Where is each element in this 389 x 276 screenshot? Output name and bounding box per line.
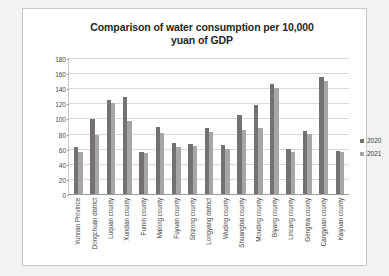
x-axis-tick-label: Biyang county (271, 198, 278, 237)
y-axis-tick-label: 20 (59, 176, 66, 183)
bar-2021[interactable] (144, 153, 148, 194)
chart-legend: 2020 2021 (360, 137, 381, 163)
bar-group (266, 58, 282, 194)
x-axis-label-cell: Lincang county (282, 197, 298, 271)
bar-group (332, 58, 348, 194)
bar-2021[interactable] (95, 135, 99, 194)
bar-group (250, 58, 266, 194)
bar-2021[interactable] (127, 121, 131, 194)
x-axis-label-cell: Cangyuan county (315, 197, 331, 271)
bar-group (201, 58, 217, 194)
legend-item-2021[interactable]: 2021 (360, 150, 381, 157)
chart-title: Comparison of water consumption per 10,0… (57, 21, 347, 47)
x-axis-labels: Yunnan ProvinceDongchuan districtLuquan … (68, 197, 349, 271)
x-axis-label-cell: Yunnan Province (69, 197, 85, 271)
bar-2021[interactable] (193, 146, 197, 194)
x-axis-label-cell: Biyang county (266, 197, 282, 271)
x-axis-label-cell: Shuangbai county (233, 197, 249, 271)
bar-group (315, 58, 331, 194)
legend-item-2020[interactable]: 2020 (360, 137, 381, 144)
plot-area: 180160140120100806040200 (68, 58, 349, 195)
bar-group (234, 58, 250, 194)
bar-2021[interactable] (324, 81, 328, 194)
bar-group (299, 58, 315, 194)
x-axis-label-cell: Fumin county (135, 197, 151, 271)
x-axis-label-cell: Wuding county (217, 197, 233, 271)
x-axis-tick-label: Luquan county (107, 198, 114, 239)
y-axis-tick-label: 60 (59, 146, 66, 153)
x-axis-tick-label: Kaiyuan county (336, 198, 343, 240)
bar-2021[interactable] (340, 152, 344, 194)
x-axis-label-cell: Luquan county (102, 197, 118, 271)
bar-group (217, 58, 233, 194)
x-axis-tick-label: Xundian county (123, 198, 130, 241)
chart-title-line2: yuan of GDP (171, 34, 233, 46)
x-axis-tick-label: Dongchuan district (90, 198, 97, 249)
bar-group (103, 58, 119, 194)
x-axis-label-cell: Malong county (151, 197, 167, 271)
y-axis-tick-label: 120 (55, 101, 66, 108)
bar-group (119, 58, 135, 194)
bar-2021[interactable] (291, 152, 295, 194)
bar-group (135, 58, 151, 194)
x-axis-label-cell: Kaiyuan county (332, 197, 348, 271)
bar-group (168, 58, 184, 194)
x-axis-tick-label: Longyang district (205, 198, 212, 245)
x-axis-label-cell: Xundian county (118, 197, 134, 271)
x-axis-label-cell: Fuyuan county (167, 197, 183, 271)
bar-2021[interactable] (78, 152, 82, 194)
bar-2021[interactable] (160, 133, 164, 194)
x-axis-tick-label: Wuding county (221, 198, 228, 239)
x-axis-tick-label: Shuangbai county (238, 198, 245, 248)
x-axis-label-cell: Dongchuan district (85, 197, 101, 271)
y-axis-tick-label: 40 (59, 161, 66, 168)
x-axis-tick-label: Mouding county (254, 198, 261, 242)
bar-2021[interactable] (209, 132, 213, 194)
legend-label-2020: 2020 (367, 137, 381, 144)
chart-frame: Comparison of water consumption per 10,0… (22, 8, 367, 266)
legend-swatch-2021-icon (360, 152, 364, 156)
x-axis-tick-label: Lincang county (287, 198, 294, 240)
bar-2021[interactable] (225, 149, 229, 194)
y-axis-tick-label: 0 (62, 192, 66, 199)
x-axis-label-cell: Shizong county (184, 197, 200, 271)
x-axis-tick-label: Fuyuan county (172, 198, 179, 239)
bar-2021[interactable] (307, 134, 311, 194)
chart-title-line1: Comparison of water consumption per 10,0… (90, 21, 313, 33)
legend-label-2021: 2021 (367, 150, 381, 157)
bar-group (152, 58, 168, 194)
bar-group (283, 58, 299, 194)
x-axis-tick-label: Gengma county (303, 198, 310, 242)
x-axis-tick-label: Malong county (156, 198, 163, 238)
y-axis-tick-mark (67, 195, 69, 196)
legend-swatch-2020-icon (360, 139, 364, 143)
x-axis-tick-label: Shizong county (189, 198, 196, 240)
bar-2021[interactable] (242, 130, 246, 194)
x-axis-label-cell: Longyang district (200, 197, 216, 271)
x-axis-label-cell: Gengma county (299, 197, 315, 271)
bar-series-container (69, 58, 349, 194)
x-axis-tick-label: Fumin county (139, 198, 146, 235)
bar-2021[interactable] (258, 128, 262, 194)
bar-2021[interactable] (274, 88, 278, 194)
bar-group (70, 58, 86, 194)
y-axis-tick-label: 160 (55, 71, 66, 78)
bar-2021[interactable] (176, 147, 180, 194)
y-axis-tick-label: 140 (55, 86, 66, 93)
bar-group (185, 58, 201, 194)
bar-group (86, 58, 102, 194)
x-axis-label-cell: Mouding county (249, 197, 265, 271)
y-axis-tick-label: 80 (59, 131, 66, 138)
x-axis-tick-label: Yunnan Province (74, 198, 81, 245)
chart-screenshot: Comparison of water consumption per 10,0… (0, 0, 389, 276)
y-axis-tick-label: 180 (55, 56, 66, 63)
x-axis-tick-label: Cangyuan county (320, 198, 327, 246)
y-axis-tick-label: 100 (55, 116, 66, 123)
gridline: 0 (69, 194, 349, 195)
bar-2021[interactable] (111, 103, 115, 194)
